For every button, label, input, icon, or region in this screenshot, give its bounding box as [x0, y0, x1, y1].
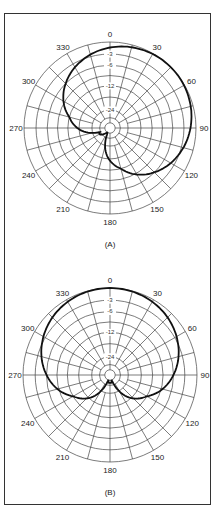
- ring-label: -6: [107, 62, 113, 68]
- angle-label: 90: [201, 371, 210, 380]
- ring-label: -24: [106, 107, 115, 113]
- ring-label: -3: [107, 51, 113, 57]
- angle-label: 330: [56, 43, 70, 52]
- angle-label: 180: [103, 466, 117, 475]
- angle-label: 270: [8, 371, 22, 380]
- angle-label: 330: [56, 289, 70, 298]
- angle-label: 30: [153, 43, 162, 52]
- angle-label: 90: [200, 124, 209, 133]
- ring-label: -24: [106, 354, 115, 360]
- angle-label: 150: [150, 205, 164, 214]
- angle-label: 180: [103, 218, 117, 227]
- angle-label: 120: [185, 171, 199, 180]
- polar-plot-b: 0306090120150180210240270300330-3-6-12-2…: [8, 276, 210, 475]
- ring-label: -12: [106, 329, 115, 335]
- ring-label: -6: [107, 308, 113, 314]
- angle-label: 210: [56, 205, 70, 214]
- caption-a: (A): [0, 240, 220, 249]
- ring-label: -3: [107, 297, 113, 303]
- polar-plot-a: 0306090120150180210240270300330-3-6-12-2…: [9, 30, 209, 227]
- angle-label: 30: [153, 289, 162, 298]
- angle-label: 150: [151, 453, 165, 462]
- angle-label: 0: [108, 30, 113, 39]
- caption-b: (B): [0, 488, 220, 497]
- angle-label: 240: [22, 171, 36, 180]
- angle-label: 210: [56, 453, 70, 462]
- angle-label: 300: [21, 324, 35, 333]
- angle-label: 60: [188, 324, 197, 333]
- ring-label: -12: [106, 83, 115, 89]
- angle-label: 270: [9, 124, 23, 133]
- angle-label: 300: [22, 77, 36, 86]
- angle-label: 240: [21, 419, 35, 428]
- angle-label: 120: [186, 419, 200, 428]
- polar-plots: 0306090120150180210240270300330-3-6-12-2…: [0, 0, 220, 510]
- angle-label: 60: [187, 77, 196, 86]
- angle-label: 0: [108, 276, 113, 285]
